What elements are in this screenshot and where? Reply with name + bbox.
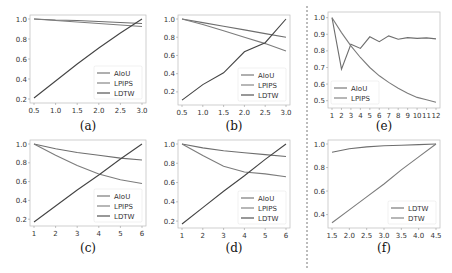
subplot-caption: (e) [376, 119, 392, 133]
legend-label: LDTW [408, 205, 429, 213]
x-tick-label: 2.5 [260, 109, 271, 117]
x-tick-label: 3 [349, 112, 353, 120]
x-tick-label: 12 [432, 112, 441, 120]
legend-label: AIoU [114, 70, 130, 78]
x-tick-label: 2 [53, 230, 57, 238]
x-tick-label: 2.0 [344, 232, 355, 240]
x-tick-label: 1.0 [197, 109, 208, 117]
y-tick-label: 0.4 [16, 76, 28, 84]
figure-grid: 0.51.01.52.02.53.00.20.40.60.81.0AIoULPI… [0, 0, 452, 273]
x-tick-label: 3 [221, 232, 225, 240]
legend: AIoULPIPSLDTW [238, 191, 286, 224]
subplot-caption: (d) [225, 241, 242, 255]
subplot-caption: (c) [80, 241, 96, 255]
x-tick-label: 1 [330, 112, 334, 120]
y-tick-label: 0.4 [164, 70, 176, 78]
legend-label: AIoU [258, 72, 274, 80]
legend-label: LPIPS [114, 80, 133, 88]
x-tick-label: 2.0 [93, 107, 104, 115]
subplot-e: 1234567891011120.50.60.70.80.91.0AIoULPI… [314, 12, 441, 133]
x-tick-label: 5 [263, 232, 267, 240]
x-tick-label: 5 [118, 230, 122, 238]
subplot-d: 1234560.20.40.60.81.0AIoULPIPSLDTW(d) [164, 140, 290, 255]
x-tick-label: 11 [422, 112, 431, 120]
legend-label: AIoU [258, 195, 274, 203]
y-tick-label: 0.6 [16, 56, 28, 64]
y-tick-label: 0.2 [164, 218, 175, 226]
x-tick-label: 9 [405, 112, 409, 120]
legend-label: LDTW [114, 213, 135, 221]
x-tick-label: 1.5 [72, 107, 83, 115]
legend-label: LPIPS [351, 95, 370, 103]
x-tick-label: 4 [97, 230, 102, 238]
legend-label: LPIPS [258, 82, 277, 90]
series-line-aiou [332, 18, 436, 69]
y-tick-label: 0.4 [314, 211, 326, 219]
legend-label: LDTW [114, 90, 135, 98]
y-tick-label: 1.0 [16, 16, 27, 24]
x-tick-label: 6 [140, 230, 145, 238]
series-line-ldtw [332, 144, 436, 152]
x-tick-label: 1 [180, 232, 184, 240]
x-tick-label: 6 [284, 232, 289, 240]
x-tick-label: 2 [339, 112, 343, 120]
x-tick-label: 4.0 [413, 232, 424, 240]
x-tick-label: 4 [242, 232, 247, 240]
subplot-caption: (f) [377, 241, 391, 255]
y-tick-label: 0.2 [16, 216, 27, 224]
x-tick-label: 1 [32, 230, 36, 238]
y-tick-label: 0.6 [164, 52, 176, 60]
series-line-aiou [182, 144, 286, 157]
x-tick-label: 4 [358, 112, 363, 120]
series-line-lpips [34, 144, 142, 184]
y-tick-label: 0.6 [314, 81, 326, 89]
x-tick-label: 1.0 [50, 107, 61, 115]
legend-label: LDTW [258, 215, 279, 223]
y-tick-label: 0.6 [314, 188, 326, 196]
y-tick-label: 0.8 [16, 36, 27, 44]
legend: AIoULPIPSLDTW [94, 66, 142, 99]
legend: AIoULPIPS [331, 81, 379, 104]
y-tick-label: 0.2 [16, 96, 27, 104]
legend-label: AIoU [114, 193, 130, 201]
subplot-caption: (a) [80, 119, 97, 133]
y-tick-label: 0.8 [314, 47, 325, 55]
legend: LDTWDTW [388, 201, 436, 224]
y-tick-label: 1.0 [164, 16, 175, 24]
legend-label: LDTW [258, 92, 279, 100]
x-tick-label: 2 [201, 232, 205, 240]
x-tick-label: 10 [413, 112, 422, 120]
y-tick-label: 0.5 [314, 97, 325, 105]
y-tick-label: 0.4 [164, 198, 176, 206]
y-tick-label: 0.6 [164, 179, 176, 187]
subplot-a: 0.51.01.52.02.53.00.20.40.60.81.0AIoULPI… [16, 15, 148, 133]
x-tick-label: 4.5 [430, 232, 441, 240]
y-tick-label: 0.7 [314, 64, 325, 72]
x-tick-label: 3.0 [136, 107, 147, 115]
y-tick-label: 1.0 [164, 141, 175, 149]
x-tick-label: 2.0 [239, 109, 250, 117]
y-tick-label: 1.0 [314, 14, 325, 22]
legend-label: DTW [408, 215, 425, 223]
y-tick-label: 1.0 [16, 141, 27, 149]
x-tick-label: 1.5 [218, 109, 229, 117]
legend: AIoULPIPSLDTW [94, 189, 142, 222]
x-tick-label: 3 [75, 230, 79, 238]
x-tick-label: 0.5 [176, 109, 187, 117]
subplot-f: 1.52.02.53.03.54.04.50.40.60.81.0LDTWDTW… [314, 140, 442, 255]
x-tick-label: 3.5 [396, 232, 407, 240]
x-tick-label: 8 [396, 112, 400, 120]
subplot-c: 1234560.20.40.60.81.0AIoULPIPSLDTW(c) [16, 140, 146, 255]
y-tick-label: 0.4 [16, 197, 28, 205]
y-tick-label: 0.8 [16, 159, 27, 167]
legend-label: LPIPS [114, 203, 133, 211]
x-tick-label: 2.5 [361, 232, 372, 240]
x-tick-label: 2.5 [115, 107, 126, 115]
legend-label: LPIPS [258, 205, 277, 213]
subplot-caption: (b) [225, 119, 242, 133]
x-tick-label: 1.5 [326, 232, 337, 240]
y-tick-label: 0.9 [314, 31, 325, 39]
y-tick-label: 0.6 [16, 178, 28, 186]
y-tick-label: 0.2 [164, 88, 175, 96]
x-tick-label: 5 [368, 112, 372, 120]
